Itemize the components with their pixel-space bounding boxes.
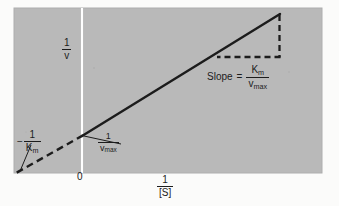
x-intercept-fraction: 1 Km	[24, 130, 41, 154]
y-axis-label-denominator: v	[62, 49, 71, 61]
scan-speck	[288, 71, 289, 72]
x-intercept-denominator-base: K	[26, 142, 33, 153]
x-axis-label-numerator: 1	[160, 175, 170, 186]
slope-annotation-fraction: Km vmax	[246, 65, 269, 90]
slope-denominator: vmax	[246, 77, 269, 90]
y-intercept-numerator: 1	[104, 132, 113, 142]
origin-tick-label: 0	[77, 172, 83, 182]
x-axis-label-denominator: [S]	[157, 186, 173, 198]
x-axis-label-fraction: 1 [S]	[157, 175, 173, 198]
y-intercept-denominator-subscript: max	[105, 146, 117, 153]
lineweaver-burk-figure: 1 v 1 [S] 0 − 1 Km 1 vmax Slope = Km vma…	[0, 0, 339, 206]
slope-numerator-subscript: m	[258, 68, 264, 77]
scan-speck	[93, 67, 94, 68]
y-intercept-fraction: 1 vmax	[98, 132, 119, 154]
slope-annotation-equals: =	[237, 72, 243, 82]
slope-denominator-subscript: max	[253, 81, 267, 90]
y-intercept-denominator: vmax	[98, 142, 119, 154]
x-axis-label: 1 [S]	[157, 175, 173, 198]
y-axis-label: 1 v	[62, 38, 72, 61]
x-intercept-numerator: 1	[27, 130, 37, 141]
x-intercept-denominator-subscript: m	[33, 146, 39, 155]
slope-annotation: Slope = Km vmax	[207, 65, 269, 90]
slope-numerator: Km	[249, 65, 266, 77]
y-axis-label-fraction: 1 v	[62, 38, 72, 61]
x-intercept-minus-sign: −	[17, 137, 23, 147]
x-intercept-annotation: − 1 Km	[17, 130, 41, 154]
x-intercept-denominator: Km	[24, 141, 41, 154]
y-intercept-annotation: 1 vmax	[98, 132, 119, 154]
y-axis-label-numerator: 1	[62, 38, 72, 49]
slope-annotation-text: Slope	[207, 72, 233, 82]
